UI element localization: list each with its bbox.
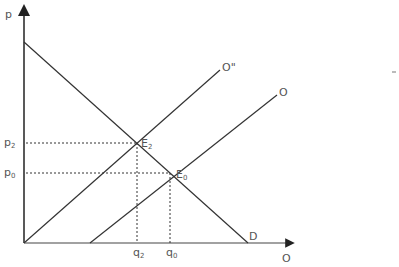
p0-label: p0 xyxy=(4,166,15,180)
e2-label: E2 xyxy=(141,137,152,151)
y-axis-label: p xyxy=(5,8,12,21)
supply-original-label: O xyxy=(279,86,288,99)
x-axis-label: O xyxy=(282,252,291,265)
stray-mark xyxy=(392,71,396,73)
q0-label: q0 xyxy=(166,246,177,260)
supply-demand-diagram: p O p2 p0 q2 q0 E2 E0 D O" O xyxy=(0,0,399,267)
p2-label: p2 xyxy=(4,136,15,150)
e0-label: E0 xyxy=(176,168,187,182)
supply-shifted-label: O" xyxy=(222,61,236,74)
supply-curve-original xyxy=(90,95,277,243)
demand-label: D xyxy=(249,230,257,243)
q2-label: q2 xyxy=(133,246,144,260)
